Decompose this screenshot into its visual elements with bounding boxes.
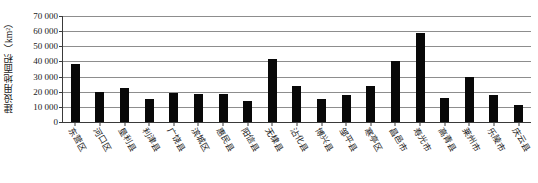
bar[interactable] — [342, 95, 351, 122]
y-axis-tick — [59, 77, 63, 78]
x-axis-tick-label: 寒亭区 — [362, 126, 384, 154]
y-axis-tick-label: 50 000 — [33, 42, 58, 51]
y-axis-tick — [59, 107, 63, 108]
y-axis-tick — [59, 61, 63, 62]
gridline — [63, 77, 531, 78]
bar[interactable] — [514, 105, 523, 122]
x-axis-tick-label: 惠民县 — [214, 126, 236, 154]
x-axis-tick-label: 沾化县 — [288, 126, 310, 154]
gridline — [63, 31, 531, 32]
bar[interactable] — [243, 101, 252, 122]
x-axis-tick-labels: 东营区河口区垦利县利津县广饶县滨城区惠民县阳信县无棣县沾化县博兴县邹平县寒亭区昌… — [62, 124, 530, 182]
y-axis-tick-label: 0 — [54, 118, 59, 127]
bar[interactable] — [145, 99, 154, 122]
y-axis-tick — [59, 16, 63, 17]
x-axis-tick-label: 庆云县 — [510, 126, 532, 154]
x-axis-tick-label: 莱州市 — [461, 126, 483, 154]
y-axis-tick — [59, 92, 63, 93]
x-axis-tick-label: 乐陵市 — [485, 126, 507, 154]
y-axis-tick — [59, 122, 63, 123]
x-axis-tick-label: 无棣县 — [264, 126, 286, 154]
bar[interactable] — [194, 94, 203, 122]
x-axis-tick-label: 邹平县 — [337, 126, 359, 154]
x-axis-tick-label: 阳信县 — [239, 126, 261, 154]
gridline — [63, 16, 531, 17]
y-axis-tick-label: 60 000 — [33, 27, 58, 36]
x-axis-tick-label: 昌邑市 — [387, 126, 409, 154]
bar[interactable] — [95, 92, 104, 122]
bar[interactable] — [71, 64, 80, 122]
bar[interactable] — [391, 61, 400, 122]
gridline — [63, 46, 531, 47]
y-axis-tick-labels: 010 00020 00030 00040 00050 00060 00070 … — [16, 10, 60, 122]
bar[interactable] — [366, 86, 375, 122]
bar[interactable] — [416, 33, 425, 122]
bar-chart: 建设用地面积（km²） 010 00020 00030 00040 00050 … — [0, 0, 538, 183]
bar[interactable] — [489, 95, 498, 122]
x-axis-tick-label: 东营区 — [67, 126, 89, 154]
x-axis-tick-label: 寿光市 — [411, 126, 433, 154]
bar[interactable] — [465, 77, 474, 122]
x-axis-tick-label: 垦利县 — [116, 126, 138, 154]
bar[interactable] — [120, 88, 129, 122]
gridline — [63, 61, 531, 62]
y-axis-tick — [59, 46, 63, 47]
y-axis-tick-label: 30 000 — [33, 72, 58, 81]
bar[interactable] — [440, 98, 449, 122]
x-axis-tick-label: 滨城区 — [190, 126, 212, 154]
x-axis-tick-label: 河口区 — [91, 126, 113, 154]
y-axis-tick-label: 40 000 — [33, 57, 58, 66]
x-axis-tick-label: 利津县 — [140, 126, 162, 154]
bar[interactable] — [317, 99, 326, 122]
y-axis-tick-label: 70 000 — [33, 12, 58, 21]
bar[interactable] — [292, 86, 301, 122]
y-axis-tick — [59, 31, 63, 32]
y-axis-tick-label: 20 000 — [33, 87, 58, 96]
x-axis-tick-label: 广饶县 — [165, 126, 187, 154]
x-axis-tick-label: 高青县 — [436, 126, 458, 154]
bar[interactable] — [219, 94, 228, 122]
bar[interactable] — [169, 93, 178, 122]
x-axis-tick-label: 博兴县 — [313, 126, 335, 154]
bar[interactable] — [268, 59, 277, 122]
plot-area — [62, 16, 531, 123]
y-axis-title: 建设用地面积（km²） — [2, 6, 16, 126]
y-axis-tick-label: 10 000 — [33, 102, 58, 111]
